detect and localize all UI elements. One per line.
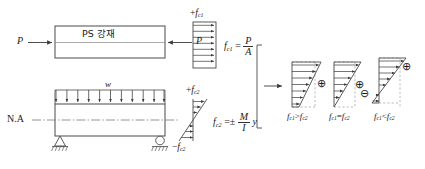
bending-stress-top-label: +fc2 [186,86,200,96]
case-equal-label: fc1=fc2 [329,112,350,122]
combining-bracket [257,45,282,128]
distributed-load [55,90,165,104]
case-greater-plus-sign: ⊕ [317,78,326,89]
bending-stress-bottom-label: −fc2 [172,143,186,153]
case-less-minus-sign: ⊖ [360,88,369,99]
bending-stress-block [179,99,207,141]
prestress-force-right-label: P [196,36,202,46]
pin-support-left [52,136,68,151]
case-less-plus-sign: ⊕ [402,61,411,72]
bending-stress-formula: fc2 =± M I y [213,112,257,134]
case-less-label: fc1<fc2 [374,112,395,122]
axial-stress-top-label: +fc1 [190,9,204,19]
roller-support-right [152,136,168,151]
case-greater-label: fc1>fc2 [287,112,308,122]
axial-stress-formula: fc1 = P A [224,36,253,58]
prestress-force-left-label: P [17,36,23,46]
case-less-diagram [372,58,406,107]
distributed-load-label: w [105,80,111,89]
figure-canvas: P P PS 강재 w N.A +fc1 fc1 = P A +fc2 −fc2… [0,0,425,169]
neutral-axis-label: N.A [7,114,24,124]
ps-tendon-label: PS 강재 [82,29,115,40]
